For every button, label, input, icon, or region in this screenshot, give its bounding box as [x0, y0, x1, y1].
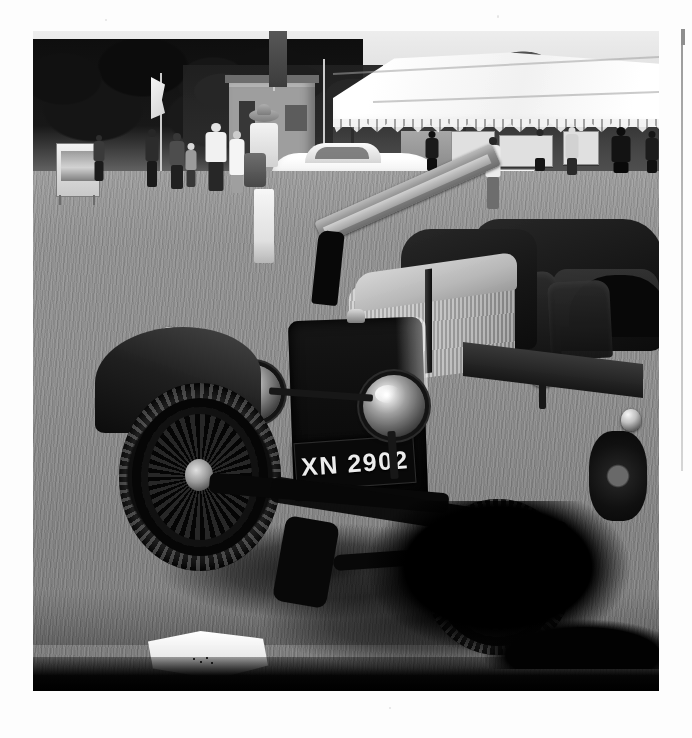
spectator-seated	[611, 127, 631, 173]
page-edge-rule	[681, 29, 683, 471]
spectator-head	[233, 131, 241, 139]
scan-speckle	[105, 19, 107, 21]
field-sign-leg	[93, 195, 95, 205]
sidelamp-right-stem	[539, 383, 546, 409]
spectator-torso	[566, 134, 579, 158]
spectator-torso	[612, 136, 631, 162]
spectator-legs	[171, 165, 183, 189]
woman-with-hat	[247, 109, 281, 263]
spectator-legs	[614, 162, 629, 173]
spectator-legs	[567, 158, 577, 175]
spectator-torso	[186, 150, 197, 170]
spectator-head	[188, 143, 195, 150]
scanned-page: XN 2902	[0, 0, 692, 738]
spectator-in-white-dress	[229, 131, 245, 193]
passenger-seat	[547, 279, 613, 360]
spectator-head	[537, 129, 544, 136]
spectator	[645, 131, 659, 173]
spectator-torso	[646, 138, 659, 160]
modern-sports-car-glass	[315, 147, 369, 159]
foreground-shadow-right	[463, 599, 659, 669]
spectator-legs	[187, 170, 196, 187]
field-sign-leg	[59, 195, 61, 205]
spectator-legs	[647, 160, 657, 173]
spectator-head	[148, 129, 156, 137]
spectator-head	[173, 133, 181, 141]
spectator-legs	[209, 162, 224, 191]
woman-legs	[254, 189, 274, 263]
spectator-torso	[170, 141, 185, 165]
spectator	[169, 133, 185, 189]
spectator	[185, 143, 197, 187]
sidelamp-rear	[621, 409, 641, 431]
spectator-torso	[146, 137, 159, 161]
spectator-head	[429, 131, 436, 138]
spectator-legs	[95, 161, 104, 181]
spectator-head	[569, 127, 576, 134]
spectator-torso	[230, 139, 245, 175]
field-sign-image	[61, 151, 95, 181]
spectator-torso	[426, 138, 439, 158]
shoulder-bag	[244, 153, 266, 187]
scan-speckle	[389, 707, 391, 709]
spectator	[425, 131, 439, 171]
headlamp-right	[363, 375, 425, 437]
spectator	[533, 129, 547, 171]
spectator	[93, 135, 105, 181]
hat-crown	[257, 104, 271, 115]
spectator	[145, 129, 159, 187]
spectator-in-white-shirt	[205, 123, 227, 191]
spectator-legs	[147, 161, 157, 187]
headlamp-glint	[375, 385, 401, 403]
radiator-cap	[347, 309, 365, 323]
spectator-legs	[232, 175, 243, 193]
scan-speckle	[497, 15, 499, 18]
spectator-head	[649, 131, 656, 138]
spectator-torso	[534, 136, 547, 158]
banner-dark	[269, 31, 287, 87]
spectator-torso	[206, 132, 227, 162]
vintage-car-photograph: XN 2902	[33, 31, 659, 691]
spectator-head	[617, 127, 626, 136]
spectator-legs	[535, 158, 545, 171]
spectator-legs	[487, 177, 499, 209]
spectator-head	[211, 123, 221, 132]
hut-window	[285, 105, 307, 131]
spectator	[565, 127, 579, 175]
spectator-torso	[94, 141, 105, 161]
